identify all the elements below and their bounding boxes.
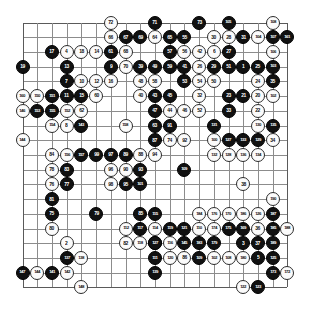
stone-white-138[interactable]: 138: [74, 251, 88, 265]
stone-white-2[interactable]: 2: [60, 236, 74, 250]
stone-white-68[interactable]: 68: [119, 45, 133, 59]
stone-white-132[interactable]: 132: [207, 148, 221, 162]
stone-black-65[interactable]: 65: [163, 30, 177, 44]
stone-white-150[interactable]: 150: [30, 89, 44, 103]
stone-black-7[interactable]: 7: [60, 74, 74, 88]
stone-black-151[interactable]: 151: [45, 89, 59, 103]
stone-white-88[interactable]: 88: [133, 148, 147, 162]
stone-white-8[interactable]: 8: [60, 119, 74, 133]
stone-black-121[interactable]: 121: [177, 222, 191, 236]
stone-white-28[interactable]: 28: [222, 30, 236, 44]
stone-black-185[interactable]: 185: [266, 222, 280, 236]
stone-white-62[interactable]: 62: [74, 104, 88, 118]
stone-black-115[interactable]: 115: [148, 207, 162, 221]
stone-white-146[interactable]: 146: [16, 104, 30, 118]
stone-white-156[interactable]: 156: [60, 148, 74, 162]
stone-white-44[interactable]: 44: [163, 104, 177, 118]
stone-white-30[interactable]: 30: [207, 30, 221, 44]
stone-white-190[interactable]: 190: [266, 192, 280, 206]
stone-white-58[interactable]: 58: [148, 74, 162, 88]
stone-black-173[interactable]: 173: [266, 266, 280, 280]
stone-white-180[interactable]: 180: [236, 251, 250, 265]
stone-black-13[interactable]: 13: [60, 60, 74, 74]
stone-black-157[interactable]: 157: [74, 148, 88, 162]
stone-black-39[interactable]: 39: [133, 60, 147, 74]
stone-black-17[interactable]: 17: [45, 45, 59, 59]
stone-white-94[interactable]: 94: [148, 148, 162, 162]
stone-black-61[interactable]: 61: [104, 45, 118, 59]
stone-white-52[interactable]: 52: [192, 104, 206, 118]
stone-white-74[interactable]: 74: [163, 133, 177, 147]
stone-white-120[interactable]: 120: [163, 251, 177, 265]
stone-black-77[interactable]: 77: [60, 177, 74, 191]
stone-black-27[interactable]: 27: [222, 45, 236, 59]
stone-black-57[interactable]: 57: [163, 45, 177, 59]
stone-black-37[interactable]: 37: [251, 236, 265, 250]
stone-white-102[interactable]: 102: [207, 251, 221, 265]
stone-black-139[interactable]: 139: [148, 266, 162, 280]
stone-black-125[interactable]: 125: [266, 251, 280, 265]
stone-white-126[interactable]: 126: [251, 207, 265, 221]
stone-black-143[interactable]: 143: [74, 119, 88, 133]
stone-white-50[interactable]: 50: [207, 74, 221, 88]
stone-black-47[interactable]: 47: [148, 104, 162, 118]
stone-white-186[interactable]: 186: [236, 207, 250, 221]
stone-white-54[interactable]: 54: [192, 74, 206, 88]
stone-black-161[interactable]: 161: [280, 30, 294, 44]
stone-white-10[interactable]: 10: [74, 74, 88, 88]
stone-black-67[interactable]: 67: [119, 30, 133, 44]
stone-white-130[interactable]: 130: [251, 119, 265, 133]
stone-black-127[interactable]: 127: [222, 133, 236, 147]
go-board[interactable]: 7271731051086667696465553028311041071611…: [0, 0, 309, 316]
stone-black-109[interactable]: 109: [177, 163, 191, 177]
stone-black-187[interactable]: 187: [266, 207, 280, 221]
stone-black-75[interactable]: 75: [45, 207, 59, 221]
stone-white-82[interactable]: 82: [119, 236, 133, 250]
stone-white-100[interactable]: 100: [207, 133, 221, 147]
stone-black-71[interactable]: 71: [148, 16, 162, 30]
stone-black-3[interactable]: 3: [236, 236, 250, 250]
stone-white-104[interactable]: 104: [251, 30, 265, 44]
stone-black-133[interactable]: 133: [236, 133, 250, 147]
stone-white-42[interactable]: 42: [192, 45, 206, 59]
stone-white-108[interactable]: 108: [222, 251, 236, 265]
stone-black-87[interactable]: 87: [148, 133, 162, 147]
stone-black-189[interactable]: 189: [266, 236, 280, 250]
stone-black-95[interactable]: 95: [119, 177, 133, 191]
stone-white-154[interactable]: 154: [45, 119, 59, 133]
stone-white-184[interactable]: 184: [192, 207, 206, 221]
stone-white-122[interactable]: 122: [236, 280, 250, 294]
stone-white-158[interactable]: 158: [119, 119, 133, 133]
stone-white-66[interactable]: 66: [104, 30, 118, 44]
stone-black-97[interactable]: 97: [104, 148, 118, 162]
stone-white-36[interactable]: 36: [251, 222, 265, 236]
stone-black-123[interactable]: 123: [251, 280, 265, 294]
stone-black-21[interactable]: 21: [236, 89, 250, 103]
stone-white-40[interactable]: 40: [133, 89, 147, 103]
stone-white-152[interactable]: 152: [60, 104, 74, 118]
stone-black-29[interactable]: 29: [207, 60, 221, 74]
stone-black-93[interactable]: 93: [133, 163, 147, 177]
stone-white-84[interactable]: 84: [45, 148, 59, 162]
stone-black-5[interactable]: 5: [251, 251, 265, 265]
stone-white-60[interactable]: 60: [89, 89, 103, 103]
stone-black-11[interactable]: 11: [60, 89, 74, 103]
stone-white-118[interactable]: 118: [133, 236, 147, 250]
stone-white-72[interactable]: 72: [104, 16, 118, 30]
stone-white-148[interactable]: 148: [74, 280, 88, 294]
stone-black-49[interactable]: 49: [148, 60, 162, 74]
stone-white-90[interactable]: 90: [119, 163, 133, 177]
stone-black-119[interactable]: 119: [163, 222, 177, 236]
stone-black-135[interactable]: 135: [266, 119, 280, 133]
stone-white-134[interactable]: 134: [251, 148, 265, 162]
stone-white-108[interactable]: 108: [266, 16, 280, 30]
stone-black-89[interactable]: 89: [119, 148, 133, 162]
stone-white-4[interactable]: 4: [60, 45, 74, 59]
stone-black-1[interactable]: 1: [236, 60, 250, 74]
stone-white-142[interactable]: 142: [60, 266, 74, 280]
stone-black-73[interactable]: 73: [192, 16, 206, 30]
stone-black-25[interactable]: 25: [251, 60, 265, 74]
stone-black-109[interactable]: 109: [192, 251, 206, 265]
stone-black-83[interactable]: 83: [60, 163, 74, 177]
stone-white-144[interactable]: 144: [16, 133, 30, 147]
